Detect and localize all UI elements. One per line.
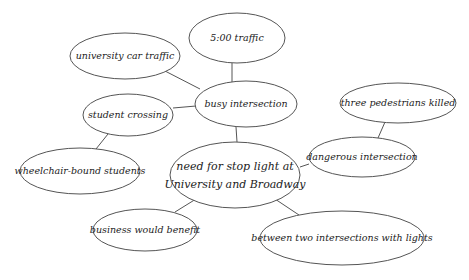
node-label: business would benefit — [90, 224, 201, 235]
node-center: need for stop light atUniversity and Bro… — [164, 142, 306, 208]
nodes-group: university car traffic5:00 trafficbusy i… — [15, 13, 456, 265]
node-label: dangerous intersection — [306, 151, 418, 162]
node-label: wheelchair-bound students — [15, 165, 146, 176]
node-busy: busy intersection — [195, 81, 297, 127]
edge-univ-busy — [165, 71, 200, 89]
cluster-diagram: university car traffic5:00 trafficbusy i… — [0, 0, 469, 280]
edge-center-biz — [175, 199, 196, 212]
edge-busy-center — [236, 127, 237, 142]
node-univ: university car traffic — [70, 33, 180, 79]
node-between: between two intersections with lights — [251, 211, 432, 265]
node-label: need for stop light at — [176, 160, 294, 173]
edge-student-busy — [173, 106, 196, 108]
node-label-line2: University and Broadway — [164, 178, 306, 191]
node-label: student crossing — [88, 109, 168, 120]
node-five: 5:00 traffic — [189, 13, 285, 63]
node-label: three pedestrians killed — [341, 97, 456, 108]
node-ellipse — [170, 142, 300, 208]
node-student: student crossing — [83, 94, 173, 136]
node-label: busy intersection — [204, 98, 287, 109]
node-label: between two intersections with lights — [251, 232, 432, 243]
node-three: three pedestrians killed — [340, 83, 456, 123]
edge-center-between — [275, 199, 299, 215]
node-biz: business would benefit — [90, 209, 201, 251]
node-label: university car traffic — [76, 50, 175, 61]
edge-student-wheel — [96, 134, 108, 149]
node-danger: dangerous intersection — [306, 137, 418, 177]
edge-three-danger — [378, 122, 385, 138]
edge-danger-center — [300, 164, 309, 167]
node-wheel: wheelchair-bound students — [15, 148, 146, 194]
node-label: 5:00 traffic — [210, 32, 264, 43]
